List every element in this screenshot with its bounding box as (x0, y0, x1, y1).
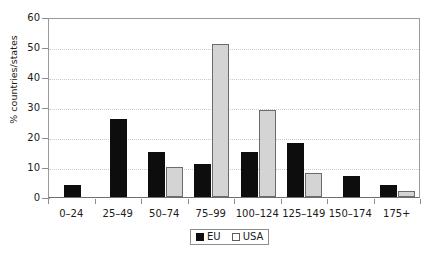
legend-swatch-eu-icon (196, 233, 204, 241)
x-tick-mark (327, 199, 328, 204)
bar-usa-3 (212, 44, 229, 197)
x-tick-mark (281, 199, 282, 204)
bar-usa-2 (166, 167, 183, 197)
bar-eu-2 (148, 152, 165, 197)
bar-eu-3 (194, 164, 211, 197)
x-tick-label: 100–124 (234, 208, 281, 220)
x-tick-mark (95, 199, 96, 204)
bar-eu-5 (287, 143, 304, 197)
gridline (49, 169, 419, 170)
x-tick-label: 150–174 (327, 208, 374, 220)
legend-entry-eu: EU (196, 232, 221, 242)
x-tick-mark (374, 199, 375, 204)
y-tick-label: 50 (0, 43, 40, 53)
y-tick-label: 60 (0, 13, 40, 23)
x-tick-mark (420, 199, 421, 204)
bar-eu-0 (64, 185, 81, 197)
legend-label-usa: USA (243, 232, 264, 242)
legend-entry-usa: USA (232, 232, 264, 242)
x-tick-label: 175+ (374, 208, 421, 220)
legend-label-eu: EU (207, 232, 221, 242)
gridline (49, 49, 419, 50)
y-tick-label: 0 (0, 193, 40, 203)
y-tick-label: 40 (0, 73, 40, 83)
bar-eu-4 (241, 152, 258, 197)
x-tick-mark (234, 199, 235, 204)
x-tick-mark (48, 199, 49, 204)
gridline (49, 79, 419, 80)
bar-usa-4 (259, 110, 276, 197)
bar-usa-5 (305, 173, 322, 197)
x-tick-mark (188, 199, 189, 204)
bar-eu-1 (110, 119, 127, 197)
x-tick-mark (141, 199, 142, 204)
x-tick-label: 0–24 (48, 208, 95, 220)
x-tick-label: 25–49 (95, 208, 142, 220)
chart-legend: EU USA (190, 229, 269, 245)
chart-page: % countries/states 0102030405060 0–2425–… (0, 0, 435, 259)
bar-usa-7 (398, 191, 415, 197)
x-tick-label: 75–99 (188, 208, 235, 220)
gridline (49, 139, 419, 140)
bar-eu-7 (380, 185, 397, 197)
gridline (49, 109, 419, 110)
y-tick-label: 10 (0, 163, 40, 173)
plot-area (48, 18, 420, 198)
bar-eu-6 (343, 176, 360, 197)
x-tick-label: 125–149 (281, 208, 328, 220)
y-tick-label: 20 (0, 133, 40, 143)
y-tick-label: 30 (0, 103, 40, 113)
x-tick-label: 50–74 (141, 208, 188, 220)
legend-swatch-usa-icon (232, 233, 240, 241)
